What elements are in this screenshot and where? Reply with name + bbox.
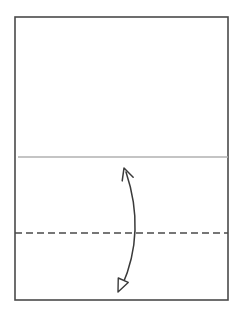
curved-arrow-shaft [122,172,135,286]
sheet-outline [15,17,228,300]
diagram-canvas [0,0,242,316]
arrowhead-bottom-icon [118,278,128,292]
figure-root [0,0,242,316]
